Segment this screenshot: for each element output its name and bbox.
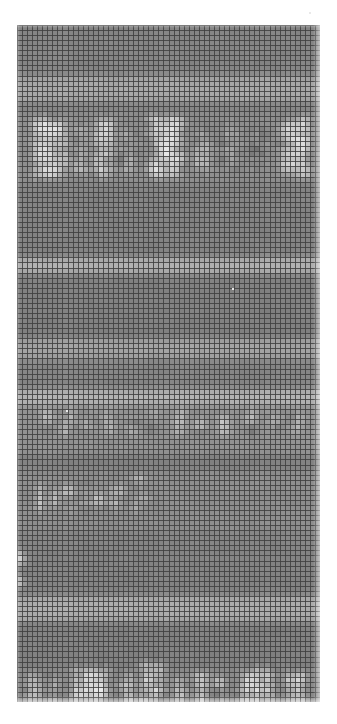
pixelated-content-region — [17, 25, 320, 702]
artifact-speck — [309, 12, 311, 14]
artifact-speck — [232, 288, 234, 290]
mosaic-grid-canvas — [17, 25, 320, 702]
alt-text: Heavily pixelated grayscale screenshot; … — [0, 0, 1, 1]
page-root: Heavily pixelated grayscale screenshot; … — [0, 0, 337, 724]
artifact-speck — [66, 410, 68, 412]
